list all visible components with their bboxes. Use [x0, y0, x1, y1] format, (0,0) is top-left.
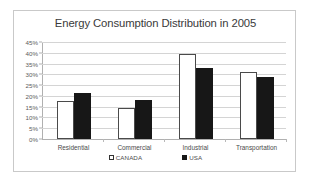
y-axis-tick-mark — [39, 85, 42, 86]
chart-container: Energy Consumption Distribution in 2005 … — [13, 10, 296, 172]
bars-layer — [43, 42, 286, 139]
bar-group — [240, 42, 274, 139]
chart-title: Energy Consumption Distribution in 2005 — [14, 17, 297, 29]
chart-legend: CANADAUSA — [14, 154, 297, 161]
y-axis-tick-mark — [39, 95, 42, 96]
plot-area: 0%5%10%15%20%25%30%35%40%45% Residential… — [42, 42, 286, 139]
y-axis-tick-label: 15% — [26, 103, 38, 110]
bar-transportation-usa[interactable] — [257, 77, 274, 140]
legend-item-usa[interactable]: USA — [182, 154, 202, 161]
bar-group — [118, 42, 152, 139]
bar-commercial-canada[interactable] — [118, 108, 135, 139]
x-axis-tick-mark — [225, 139, 226, 142]
y-axis-tick-label: 10% — [26, 114, 38, 121]
legend-label: CANADA — [116, 154, 142, 161]
bar-residential-usa[interactable] — [74, 93, 91, 139]
y-axis-tick-mark — [39, 42, 42, 43]
bar-transportation-canada[interactable] — [240, 72, 257, 139]
y-axis-tick-label: 30% — [26, 71, 38, 78]
y-axis-tick-mark — [39, 117, 42, 118]
bar-group — [57, 42, 91, 139]
y-axis-tick-label: 25% — [26, 82, 38, 89]
y-axis-tick-mark — [39, 63, 42, 64]
legend-label: USA — [189, 154, 202, 161]
y-axis-tick-label: 35% — [26, 60, 38, 67]
bar-industrial-usa[interactable] — [196, 68, 213, 139]
x-axis-label-commercial: Commercial — [117, 144, 151, 151]
y-axis-tick-label: 0% — [29, 136, 38, 143]
y-axis-tick-label: 5% — [29, 125, 38, 132]
white-square-marker-icon — [109, 155, 114, 160]
y-axis-tick-label: 45% — [26, 39, 38, 46]
legend-item-canada[interactable]: CANADA — [109, 154, 142, 161]
x-axis-tick-mark — [103, 139, 104, 142]
bar-residential-canada[interactable] — [57, 101, 74, 139]
x-axis-tick-mark — [286, 139, 287, 142]
black-square-marker-icon — [182, 155, 187, 160]
y-axis-tick-mark — [39, 106, 42, 107]
bar-group — [179, 42, 213, 139]
y-axis-tick-mark — [39, 128, 42, 129]
y-axis-tick-mark — [39, 139, 42, 140]
y-axis-tick-label: 40% — [26, 49, 38, 56]
x-axis-label-residential: Residential — [58, 144, 90, 151]
y-axis-tick-label: 20% — [26, 92, 38, 99]
bar-commercial-usa[interactable] — [135, 100, 152, 139]
x-axis-label-industrial: Industrial — [183, 144, 209, 151]
bar-industrial-canada[interactable] — [179, 54, 196, 139]
x-axis-label-transportation: Transportation — [236, 144, 277, 151]
y-axis-tick-mark — [39, 74, 42, 75]
x-axis-tick-mark — [164, 139, 165, 142]
y-axis-tick-mark — [39, 52, 42, 53]
